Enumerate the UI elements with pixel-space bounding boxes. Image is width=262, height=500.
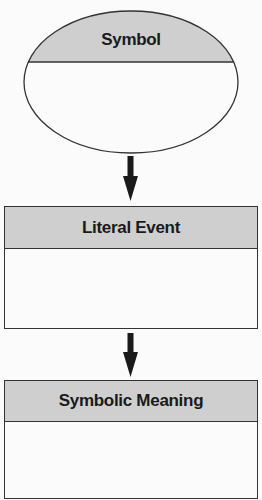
symbol-ellipse-shape (0, 0, 262, 160)
literal-event-label: Literal Event (82, 218, 180, 238)
literal-event-node: Literal Event (4, 206, 258, 329)
symbolic-meaning-label: Symbolic Meaning (59, 391, 203, 411)
symbol-label: Symbol (0, 30, 262, 50)
symbolic-meaning-header: Symbolic Meaning (5, 381, 257, 422)
literal-event-header: Literal Event (5, 207, 257, 249)
symbolic-meaning-node: Symbolic Meaning (4, 380, 258, 499)
